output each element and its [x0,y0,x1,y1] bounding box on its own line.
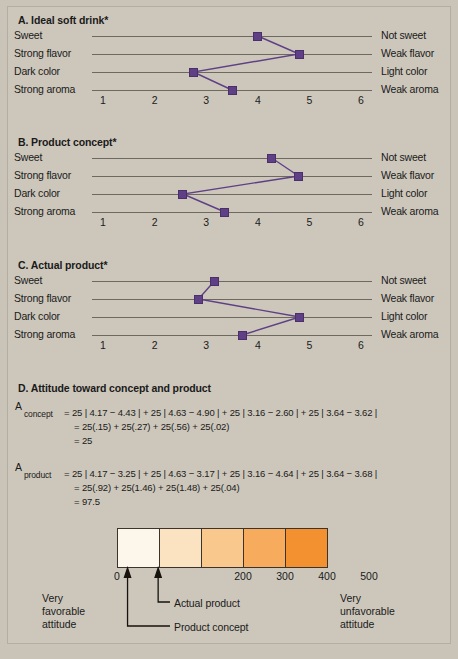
axis-tick-label: 6 [351,216,371,228]
row-label-right: Weak aroma [381,328,438,340]
row-label-right: Light color [381,310,427,322]
axis-tick-label: 3 [196,216,216,228]
attitude-scale-segment [160,529,202,567]
axis-line [92,176,372,177]
row-label-left: Strong flavor [14,169,71,181]
row-label-left: Strong flavor [14,292,71,304]
axis-tick-label: 2 [145,339,165,351]
left-caption: Very favorable attitude [42,592,85,631]
axis-line [92,36,372,37]
row-label-right: Weak flavor [381,47,434,59]
axis-tick-label: 2 [145,94,165,106]
axis-line [92,299,372,300]
right-caption-line-3: attitude [340,618,395,631]
attitude-scale-tick-label: 500 [354,570,384,582]
row-label-left: Dark color [14,65,60,77]
panel-c-title: C. Actual product* [18,259,107,271]
a-concept-line-3: = 25 [74,435,92,446]
attitude-scale-tick-label: 0 [102,570,132,582]
row-label-left: Dark color [14,310,60,322]
row-label-left: Strong aroma [14,205,75,217]
row-label-right: Not sweet [381,29,426,41]
axis-line [92,72,372,73]
a-concept-line-2: = 25(.15) + 25(.27) + 25(.56) + 25(.02) [74,421,229,432]
attitude-scale-segment [118,529,160,567]
axis-line [92,281,372,282]
data-point-marker[interactable] [294,172,303,181]
left-caption-line-3: attitude [42,618,85,631]
row-label-right: Not sweet [381,151,426,163]
data-point-marker[interactable] [194,295,203,304]
axis-line [92,54,372,55]
data-point-marker[interactable] [210,277,219,286]
row-label-right: Weak flavor [381,292,434,304]
a-product-subscript: product [24,470,51,480]
data-point-marker[interactable] [228,86,237,95]
figure-page: A. Ideal soft drink* SweetNot sweetStron… [0,0,458,659]
data-point-marker[interactable] [253,32,262,41]
left-caption-line-2: favorable [42,605,85,618]
axis-tick-label: 5 [299,339,319,351]
axis-line [92,194,372,195]
data-point-marker[interactable] [189,68,198,77]
axis-tick-label: 3 [196,94,216,106]
axis-tick-label: 4 [248,94,268,106]
axis-tick-label: 1 [93,339,113,351]
data-point-marker[interactable] [295,313,304,322]
axis-line [92,158,372,159]
row-label-left: Sweet [14,274,42,286]
attitude-scale-tick-label: 300 [270,570,300,582]
axis-tick-label: 6 [351,94,371,106]
axis-tick-label: 3 [196,339,216,351]
axis-tick-label: 4 [248,339,268,351]
row-label-right: Not sweet [381,274,426,286]
row-label-left: Sweet [14,29,42,41]
a-product-symbol: A [15,461,22,473]
a-product-line-3: = 97.5 [74,496,100,507]
axis-line [92,212,372,213]
axis-line [92,335,372,336]
row-label-right: Light color [381,187,427,199]
axis-line [92,317,372,318]
attitude-scale-segment [202,529,244,567]
axis-tick-label: 1 [93,94,113,106]
a-concept-symbol: A [15,400,22,412]
attitude-scale-bar [117,528,328,568]
row-label-left: Dark color [14,187,60,199]
a-concept-subscript: concept [24,409,53,419]
axis-tick-label: 1 [93,216,113,228]
axis-tick-label: 5 [299,94,319,106]
row-label-left: Strong aroma [14,328,75,340]
panel-b-title: B. Product concept* [18,136,116,148]
axis-tick-label: 4 [248,216,268,228]
a-concept-line-1: = 25 | 4.17 − 4.43 | + 25 | 4.63 − 4.90 … [64,407,377,418]
attitude-scale-tick-label: 400 [312,570,342,582]
row-label-right: Weak flavor [381,169,434,181]
left-caption-line-1: Very [42,592,85,605]
data-point-marker[interactable] [267,154,276,163]
attitude-scale-segment [286,529,327,567]
panel-d-title: D. Attitude toward concept and product [18,382,211,394]
attitude-scale-segment [244,529,286,567]
attitude-scale-tick-label: 200 [228,570,258,582]
marker-label-actual-product: Actual product [174,597,240,609]
data-point-marker[interactable] [220,208,229,217]
row-label-left: Strong aroma [14,83,75,95]
row-label-left: Sweet [14,151,42,163]
data-point-marker[interactable] [178,190,187,199]
row-label-right: Weak aroma [381,205,438,217]
axis-tick-label: 6 [351,339,371,351]
axis-tick-label: 2 [145,216,165,228]
row-label-right: Light color [381,65,427,77]
right-caption-line-1: Very [340,592,395,605]
a-product-line-2: = 25(.92) + 25(1.46) + 25(1.48) + 25(.04… [74,482,240,493]
row-label-right: Weak aroma [381,83,438,95]
right-caption: Very unfavorable attitude [340,592,395,631]
panel-a-title: A. Ideal soft drink* [18,14,108,26]
marker-label-product-concept: Product concept [174,621,248,633]
data-point-marker[interactable] [295,50,304,59]
row-label-left: Strong flavor [14,47,71,59]
right-caption-line-2: unfavorable [340,605,395,618]
a-product-line-1: = 25 | 4.17 − 3.25 | + 25 | 4.63 − 3.17 … [64,468,377,479]
data-point-marker[interactable] [238,331,247,340]
